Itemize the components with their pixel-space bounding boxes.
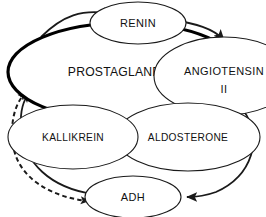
node-aldosterone-label: ALDOSTERONE <box>148 132 228 143</box>
node-renin[interactable]: RENIN <box>90 2 186 44</box>
node-adh[interactable]: ADH <box>85 176 181 217</box>
node-renin-label: RENIN <box>120 17 156 29</box>
node-angiotensin2-label-line1: ANGIOTENSIN <box>184 65 264 77</box>
node-adh-label: ADH <box>121 191 145 203</box>
prostaglandin-cycle-diagram: PROSTAGLANDINS RENIN ANGIOTENSIN II ALDO… <box>0 0 266 217</box>
node-kallikrein-label: KALLIKREIN <box>42 132 104 143</box>
node-kallikrein[interactable]: KALLIKREIN <box>8 105 138 169</box>
node-angiotensin2-label-line2: II <box>221 83 228 95</box>
diagram-canvas: PROSTAGLANDINS RENIN ANGIOTENSIN II ALDO… <box>0 0 266 217</box>
